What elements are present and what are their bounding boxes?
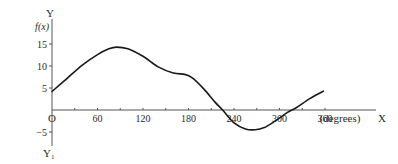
- y-axis-letter: Y: [46, 7, 54, 19]
- y-axis-function-label: f(x): [35, 21, 50, 33]
- y-tick-label: −5: [36, 127, 47, 138]
- origin-label: O: [48, 112, 56, 124]
- y-tick-label: 5: [42, 83, 47, 94]
- x-tick-label: 180: [181, 113, 196, 124]
- x-tick-label: 120: [136, 113, 151, 124]
- x-axis: 60120180240300360 (degrees) X: [52, 108, 386, 125]
- x-axis-letter: X: [378, 112, 386, 124]
- x-axis-unit-label: (degrees): [320, 112, 361, 125]
- x-tick-labels: 60120180240300360: [93, 113, 333, 124]
- y-axis-bottom-letter: Y₁: [43, 147, 55, 159]
- y-tick-labels: −551015: [36, 39, 47, 138]
- y-tick-label: 10: [37, 61, 47, 72]
- x-tick-label: 60: [93, 113, 103, 124]
- y-tick-label: 15: [37, 39, 47, 50]
- y-axis: −551015 Y f(x) Y₁ O: [35, 7, 56, 159]
- chart: 60120180240300360 (degrees) X −551015 Y …: [0, 0, 398, 164]
